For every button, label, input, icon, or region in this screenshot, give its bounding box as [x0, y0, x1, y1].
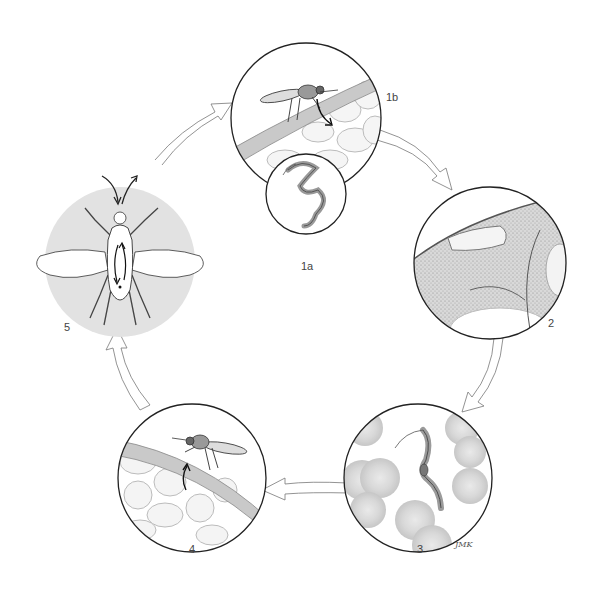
arrow-5-to-1b: [155, 103, 232, 165]
arrow-2-to-3: [462, 338, 503, 412]
label-stage-3: 3: [417, 543, 423, 555]
label-stage-5: 5: [64, 321, 70, 333]
stage-5-fly-anatomy: [37, 176, 204, 337]
label-stage-4: 4: [189, 543, 195, 555]
label-stage-2: 2: [548, 317, 554, 329]
label-stage-1a: 1a: [301, 260, 313, 272]
artist-signature: JMK: [455, 540, 472, 549]
arrow-4-to-5: [106, 328, 150, 410]
stage-1a-trypanosome: [266, 154, 346, 234]
arrow-3-to-4: [262, 478, 350, 500]
arrow-1b-to-2: [377, 130, 452, 190]
life-cycle-diagram: [0, 0, 597, 605]
stage-3-bloodstream: [340, 400, 500, 565]
label-stage-1b: 1b: [386, 91, 398, 103]
stage-4-fly-feeding: [115, 400, 275, 560]
